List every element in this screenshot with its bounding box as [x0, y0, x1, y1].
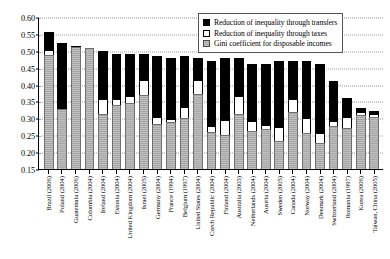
stacked-bar[interactable]	[342, 98, 352, 169]
stacked-bar[interactable]	[315, 64, 325, 169]
x-axis-slot: Australia (2003)	[231, 170, 245, 259]
stacked-bar[interactable]	[302, 61, 312, 169]
x-axis-slot: Sweden (2005)	[272, 170, 286, 259]
x-axis-tick-label: Netherlands (2004)	[248, 176, 255, 226]
x-axis-slot: Norway (2004)	[299, 170, 313, 259]
bar-segment-taxes	[98, 99, 108, 114]
stacked-bar[interactable]	[180, 56, 190, 169]
x-axis-tick-label: Estonia (2004)	[112, 176, 119, 214]
bar-segment-taxes	[302, 118, 312, 133]
x-axis-tick-mark	[265, 170, 266, 174]
x-axis-tick-label: Korea (2006)	[357, 176, 364, 211]
stacked-bar[interactable]	[71, 46, 81, 169]
bar-segment-gini	[139, 95, 149, 169]
solid-black-swatch	[203, 19, 210, 26]
bar-segment-gini	[112, 105, 122, 169]
stacked-bar[interactable]	[152, 56, 162, 169]
bar-slot	[137, 18, 151, 169]
bar-segment-transfers	[302, 61, 312, 118]
stacked-bar[interactable]	[247, 64, 257, 169]
stacked-bar[interactable]	[125, 54, 135, 169]
bar-segment-gini	[44, 55, 54, 169]
bar-segment-gini	[98, 114, 108, 169]
stacked-bar[interactable]	[369, 111, 379, 169]
bar-slot	[83, 18, 97, 169]
x-axis-tick-label: Norway (2004)	[303, 176, 310, 216]
bar-segment-gini	[85, 48, 95, 169]
x-axis-tick-mark	[292, 170, 293, 174]
x-axis-tick-mark	[360, 170, 361, 174]
stacked-bar[interactable]	[112, 54, 122, 169]
x-axis-tick-label: Sweden (2005)	[275, 176, 282, 215]
x-axis-tick-label: United States (2004)	[194, 176, 201, 230]
stacked-bar[interactable]	[44, 32, 54, 169]
bar-segment-taxes	[139, 80, 149, 96]
y-axis-tick-label: 0.35	[21, 98, 35, 107]
x-axis-tick-mark	[238, 170, 239, 174]
bar-segment-gini	[329, 126, 339, 169]
stacked-bar[interactable]	[234, 58, 244, 169]
x-axis-tick-label: Czech Republic (2004)	[207, 176, 214, 236]
bar-segment-taxes	[342, 117, 352, 128]
stacked-bar[interactable]	[207, 61, 217, 169]
x-axis-tick-label: Poland (2004)	[58, 176, 65, 213]
x-axis-slot: Korea (2006)	[354, 170, 368, 259]
stacked-bar[interactable]	[57, 43, 67, 169]
x-axis-tick-label: Brazil (2006)	[44, 176, 51, 211]
stacked-bar[interactable]	[329, 81, 339, 169]
stacked-bar[interactable]	[166, 58, 176, 169]
bar-segment-transfers	[57, 43, 67, 110]
y-axis-tick-label: 0.55	[21, 30, 35, 39]
x-axis-tick-mark	[374, 170, 375, 174]
stacked-bar[interactable]	[139, 54, 149, 169]
bar-segment-transfers	[207, 61, 217, 127]
x-axis-slot: Colombia (2004)	[82, 170, 96, 259]
bar-slot	[178, 18, 192, 169]
bar-segment-transfers	[288, 61, 298, 99]
bar-segment-transfers	[342, 98, 352, 117]
bar-segment-taxes	[152, 117, 162, 124]
bar-slot	[42, 18, 56, 169]
stacked-bar[interactable]	[98, 51, 108, 169]
x-axis-slot: Belgium (1997)	[177, 170, 191, 259]
x-axis-tick-mark	[116, 170, 117, 174]
stacked-bar[interactable]	[261, 64, 271, 169]
stacked-bar[interactable]	[85, 48, 95, 169]
y-axis-tick-label: 0.15	[21, 166, 35, 175]
bar-slot	[96, 18, 110, 169]
x-axis-tick-mark	[102, 170, 103, 174]
stacked-bar[interactable]	[356, 108, 366, 169]
stacked-bar[interactable]	[274, 61, 284, 169]
stacked-bar[interactable]	[288, 61, 298, 169]
legend-item: Reduction of inequality through transfer…	[203, 18, 337, 28]
x-axis-tick-mark	[75, 170, 76, 174]
x-axis-slot: Switzerland (2004)	[326, 170, 340, 259]
stacked-bar[interactable]	[193, 58, 203, 169]
bar-segment-gini	[166, 122, 176, 169]
x-axis-tick-label: Belgium (1997)	[180, 176, 187, 217]
bar-segment-transfers	[98, 51, 108, 99]
bar-segment-gini	[274, 141, 284, 169]
bar-segment-gini	[302, 133, 312, 169]
x-axis-tick-mark	[279, 170, 280, 174]
bar-slot	[56, 18, 70, 169]
x-axis-slot: Poland (2004)	[55, 170, 69, 259]
x-axis-slot: Austria (2004)	[259, 170, 273, 259]
x-axis-tick-label: Australia (2003)	[235, 176, 242, 219]
x-axis-tick-mark	[143, 170, 144, 174]
stacked-bar[interactable]	[220, 58, 230, 169]
bar-segment-taxes	[274, 127, 284, 141]
bar-segment-gini	[71, 47, 81, 169]
bar-segment-transfers	[180, 56, 190, 107]
x-axis-tick-mark	[320, 170, 321, 174]
x-axis-slot: United States (2004)	[191, 170, 205, 259]
bar-segment-gini	[125, 103, 135, 169]
x-axis-slot: Ireland (2004)	[95, 170, 109, 259]
x-axis-slot: Denmark (2004)	[313, 170, 327, 259]
bar-segment-transfers	[247, 64, 257, 120]
x-axis-tick-label: United Kingdom (2004)	[126, 176, 133, 239]
white-outline-swatch	[203, 30, 210, 37]
y-axis-tick-label: 0.30	[21, 115, 35, 124]
bar-segment-transfers	[234, 58, 244, 96]
x-axis-slot: Guatemala (2006)	[68, 170, 82, 259]
